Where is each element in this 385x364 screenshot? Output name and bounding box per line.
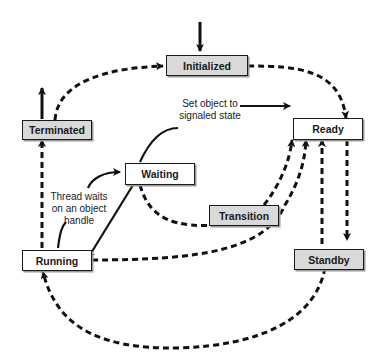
state-terminated-label: Terminated <box>29 124 85 136</box>
waiting-to-ready-arrow <box>140 128 178 162</box>
state-running: Running <box>22 250 92 271</box>
state-running-label: Running <box>36 255 79 267</box>
annotation-set-object: Set object to signaled state <box>178 98 242 122</box>
state-initialized: Initialized <box>166 55 248 76</box>
annotation-thread-waits: Thread waits on an object handle <box>44 191 114 227</box>
state-initialized-label: Initialized <box>183 60 231 72</box>
state-terminated: Terminated <box>22 120 92 140</box>
terminated-to-initialized-arrow <box>55 66 163 120</box>
standby-to-running-arrow <box>43 268 325 348</box>
state-ready-label: Ready <box>312 123 344 135</box>
state-standby-label: Standby <box>308 254 349 266</box>
state-transition: Transition <box>209 205 279 226</box>
state-waiting: Waiting <box>125 163 195 185</box>
state-ready: Ready <box>293 118 363 140</box>
transition-to-ready-arrow <box>264 140 292 205</box>
state-standby: Standby <box>294 249 364 270</box>
state-transition-label: Transition <box>219 210 269 222</box>
thread-state-diagram: Initialized Ready Terminated Waiting Tra… <box>0 0 385 364</box>
state-waiting-label: Waiting <box>141 168 179 180</box>
initialized-to-ready-arrow <box>248 66 346 118</box>
